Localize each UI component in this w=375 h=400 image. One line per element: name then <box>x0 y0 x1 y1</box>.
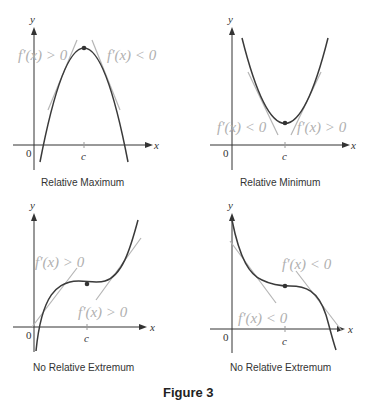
left-derivative-label: f′(x) < 0 <box>217 119 267 136</box>
left-derivative-label: f′(x) > 0 <box>35 254 85 271</box>
x-axis-label: x <box>149 321 155 333</box>
right-derivative-label: f′(x) < 0 <box>282 256 332 273</box>
origin-label: 0 <box>223 147 229 159</box>
x-axis-arrow-icon <box>342 142 350 148</box>
curve <box>242 38 328 124</box>
relative-minimum-graph: f′(x) < 0 f′(x) > 0 x y 0 c <box>190 0 375 195</box>
origin-label: 0 <box>223 331 229 343</box>
extremum-point <box>82 46 87 51</box>
panel-no-extremum-increasing: f′(x) > 0 f′(x) > 0 x y 0 c No Relative … <box>0 190 190 380</box>
panel-relative-minimum: f′(x) < 0 f′(x) > 0 x y 0 c Relative Min… <box>190 0 375 195</box>
right-derivative-label: f′(x) > 0 <box>78 304 128 321</box>
y-axis-arrow-icon <box>31 213 37 221</box>
inflection-point <box>85 282 90 287</box>
y-axis-arrow-icon <box>229 213 235 221</box>
x-axis-label: x <box>153 139 159 151</box>
no-extremum-decreasing-graph: f′(x) < 0 f′(x) < 0 x y 0 c <box>190 190 375 380</box>
y-axis-label: y <box>227 199 233 211</box>
x-axis-arrow-icon <box>139 324 147 330</box>
left-derivative-label: f′(x) > 0 <box>18 47 68 64</box>
c-label: c <box>81 150 86 162</box>
origin-label: 0 <box>26 329 32 341</box>
y-axis-label: y <box>29 199 35 211</box>
panel-no-extremum-decreasing: f′(x) < 0 f′(x) < 0 x y 0 c No Relative … <box>190 190 375 380</box>
y-axis-arrow-icon <box>229 27 235 35</box>
y-axis-arrow-icon <box>31 27 37 35</box>
no-extremum-increasing-graph: f′(x) > 0 f′(x) > 0 x y 0 c <box>0 190 190 380</box>
tangent-left <box>230 241 276 303</box>
caption-no-extremum-decreasing: No Relative Extremum <box>230 361 331 373</box>
y-axis-label: y <box>227 13 233 25</box>
c-label: c <box>282 335 287 347</box>
figure-label: Figure 3 <box>163 385 214 400</box>
caption-relative-maximum: Relative Maximum <box>41 176 124 188</box>
relative-maximum-graph: f′(x) > 0 f′(x) < 0 x y 0 c <box>0 0 190 195</box>
x-axis-label: x <box>347 323 353 335</box>
y-axis-label: y <box>29 13 35 25</box>
origin-label: 0 <box>26 147 32 159</box>
right-derivative-label: f′(x) > 0 <box>297 119 347 136</box>
extremum-point <box>283 121 288 126</box>
tangent-left <box>32 268 77 327</box>
inflection-point <box>283 284 288 289</box>
left-derivative-label: f′(x) < 0 <box>238 310 288 327</box>
tangent-right <box>96 238 141 300</box>
right-derivative-label: f′(x) < 0 <box>107 47 157 64</box>
c-label: c <box>84 332 89 344</box>
panel-relative-maximum: f′(x) > 0 f′(x) < 0 x y 0 c Relative Max… <box>0 0 190 195</box>
caption-relative-minimum: Relative Minimum <box>240 176 320 188</box>
x-axis-arrow-icon <box>145 142 153 148</box>
x-axis-label: x <box>350 139 356 151</box>
caption-no-extremum-increasing: No Relative Extremum <box>33 361 134 373</box>
c-label: c <box>282 150 287 162</box>
